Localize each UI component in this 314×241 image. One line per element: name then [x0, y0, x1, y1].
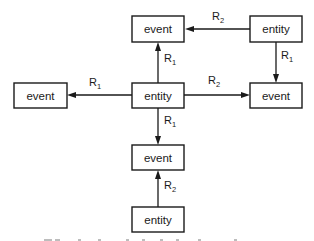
arrowhead-icon	[273, 74, 279, 83]
edge-label-r1-right: R1	[281, 49, 293, 64]
node-label: event	[26, 90, 55, 102]
node-event-left: event	[14, 83, 67, 108]
arrowhead-icon	[155, 42, 161, 51]
edge-label-r2-right: R2	[208, 74, 220, 89]
arrowhead-icon	[155, 170, 161, 179]
arrowhead-icon	[185, 26, 194, 32]
edge-entity-center-to-event-left	[67, 92, 132, 98]
edge-label-r2-top: R2	[212, 10, 224, 25]
node-label: event	[144, 23, 173, 35]
edge-label-r1-left: R1	[89, 76, 101, 91]
edge-label-r2-bottom: R2	[164, 179, 176, 194]
edge-label-r1-up: R1	[164, 52, 176, 67]
edge-entity-topright-to-event-right	[273, 42, 279, 83]
node-entity-topright: entity	[250, 16, 302, 42]
edge-entity-center-to-event-top	[155, 42, 161, 83]
node-entity-bottom: entity	[132, 207, 184, 232]
node-label: entity	[144, 90, 172, 102]
edge-entity-bottom-to-event-middle	[155, 170, 161, 207]
node-event-top: event	[132, 16, 184, 42]
node-event-middle: event	[132, 145, 184, 170]
node-entity-center: entity	[132, 83, 184, 108]
node-label: entity	[262, 23, 290, 35]
edge-entity-center-to-event-right	[184, 92, 250, 98]
arrowhead-icon	[155, 136, 161, 145]
entity-event-diagram: R2 R1 R1 R1 R2 R1 R2 event entity	[0, 0, 314, 241]
edge-label-r1-down: R1	[164, 114, 176, 129]
node-event-right: event	[250, 83, 302, 108]
node-label: event	[144, 152, 173, 164]
arrowhead-icon	[241, 92, 250, 98]
node-label: entity	[144, 214, 172, 226]
arrowhead-icon	[67, 92, 76, 98]
edge-entity-topright-to-event-top	[185, 26, 250, 32]
edge-entity-center-to-event-middle	[155, 108, 161, 145]
node-label: event	[262, 90, 291, 102]
